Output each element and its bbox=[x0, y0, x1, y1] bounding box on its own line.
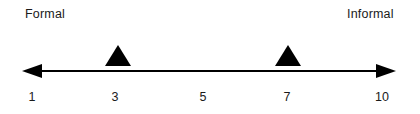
formality-scale-figure: Formal Informal 135710 bbox=[0, 0, 420, 114]
tick-label-7: 7 bbox=[284, 89, 291, 105]
tick-label-5: 5 bbox=[200, 89, 207, 105]
arrow-left-icon bbox=[22, 64, 42, 78]
marker-at-3 bbox=[105, 45, 131, 66]
axis-line-group bbox=[22, 64, 396, 78]
tick-label-3: 3 bbox=[112, 89, 119, 105]
arrow-right-icon bbox=[376, 64, 396, 78]
scale-axis-graphic bbox=[0, 0, 420, 114]
tick-label-10: 10 bbox=[375, 89, 389, 105]
tick-label-1: 1 bbox=[29, 89, 36, 105]
marker-at-7 bbox=[275, 45, 301, 66]
marker-group bbox=[105, 45, 301, 66]
